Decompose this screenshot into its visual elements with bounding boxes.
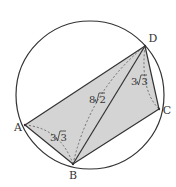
measure-bd-radicand: 2 — [100, 94, 106, 105]
measure-dc-radicand: 3 — [142, 76, 148, 87]
vertex-label-a: A — [13, 121, 23, 134]
vertex-label-c: C — [163, 104, 171, 117]
vertex-b-dot — [72, 163, 74, 165]
measure-dc-coef: 3 — [131, 76, 137, 87]
quadrilateral-abcd-fill — [25, 46, 159, 164]
vertex-c-dot — [158, 108, 160, 110]
vertex-a-dot — [24, 124, 26, 126]
measure-bd-coef: 8 — [89, 94, 95, 105]
vertex-label-b: B — [69, 169, 77, 182]
measure-ab-radicand: 3 — [61, 132, 67, 143]
vertex-label-d: D — [149, 32, 158, 45]
vertex-d-dot — [144, 45, 146, 47]
cyclic-quadrilateral-diagram: A B C D 3 3 8 2 3 3 — [0, 0, 176, 187]
measure-ab-coef: 3 — [50, 132, 56, 143]
